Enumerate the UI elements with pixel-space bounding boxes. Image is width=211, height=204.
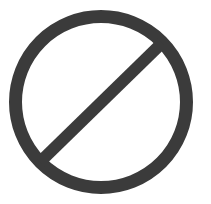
prohibited-icon <box>0 0 211 204</box>
prohibited-symbol-canvas: No / Prohibited symbol <box>0 0 211 204</box>
prohibited-slash <box>40 43 162 162</box>
